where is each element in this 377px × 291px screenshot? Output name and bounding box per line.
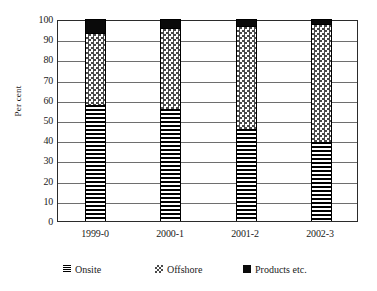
y-axis-tick-label: 100	[20, 15, 53, 25]
x-axis-tick-label: 2001-2	[210, 228, 280, 240]
bar-segment-onsite[interactable]	[160, 109, 181, 221]
y-axis-tick-label: 40	[20, 136, 53, 146]
bar-1999-0[interactable]	[85, 19, 106, 221]
x-axis-tick-label: 2002-3	[285, 228, 355, 240]
x-axis-tick-labels: 1999-02000-12001-22002-3	[57, 228, 358, 244]
legend-swatch-offshore-icon	[155, 265, 163, 273]
chart-legend: Onsite Offshore Products etc.	[57, 260, 358, 278]
y-axis-tick-labels: 0102030405060708090100	[20, 20, 53, 222]
legend-swatch-products-icon	[243, 265, 251, 273]
bar-2002-3[interactable]	[311, 19, 332, 221]
bar-segment-offshore[interactable]	[311, 25, 332, 142]
y-axis-tick-label: 10	[20, 197, 53, 207]
y-axis-tick-label: 30	[20, 156, 53, 166]
legend-swatch-onsite-icon	[63, 265, 71, 273]
legend-item-products[interactable]: Products etc.	[243, 264, 307, 275]
y-axis-tick-label: 90	[20, 35, 53, 45]
bar-segment-onsite[interactable]	[311, 142, 332, 221]
y-axis-tick-label: 60	[20, 96, 53, 106]
legend-item-onsite[interactable]: Onsite	[63, 264, 101, 275]
legend-label-onsite: Onsite	[75, 264, 101, 275]
x-axis-tick-label: 1999-0	[60, 228, 130, 240]
stacked-bar-chart: Per cent 0102030405060708090100 1999-020…	[0, 0, 377, 291]
bar-segment-offshore[interactable]	[160, 29, 181, 109]
legend-label-products: Products etc.	[255, 264, 307, 275]
bar-2000-1[interactable]	[160, 19, 181, 221]
y-axis-tick-label: 0	[20, 217, 53, 227]
bars-layer	[58, 21, 357, 221]
bar-segment-offshore[interactable]	[85, 34, 106, 105]
y-axis-tick-label: 70	[20, 76, 53, 86]
y-axis-tick-label: 50	[20, 116, 53, 126]
plot-area	[57, 20, 358, 222]
bar-segment-products-etc[interactable]	[160, 19, 181, 29]
legend-item-offshore[interactable]: Offshore	[155, 264, 202, 275]
bar-segment-offshore[interactable]	[236, 27, 257, 129]
bar-segment-products-etc[interactable]	[85, 19, 106, 34]
x-axis-tick-label: 2000-1	[135, 228, 205, 240]
bar-segment-onsite[interactable]	[236, 129, 257, 221]
legend-label-offshore: Offshore	[167, 264, 202, 275]
bar-segment-products-etc[interactable]	[236, 19, 257, 27]
y-axis-tick-label: 80	[20, 55, 53, 65]
bar-segment-onsite[interactable]	[85, 105, 106, 221]
y-axis-tick-label: 20	[20, 177, 53, 187]
bar-2001-2[interactable]	[236, 19, 257, 221]
